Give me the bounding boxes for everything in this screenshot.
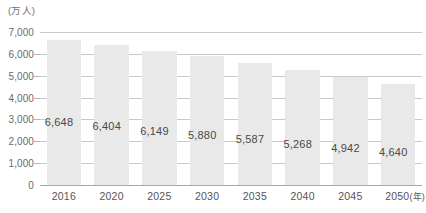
- bar: [333, 77, 367, 185]
- y-axis-tick-label: 2,000: [8, 136, 34, 147]
- bar-value-label: 4,942: [331, 142, 360, 154]
- bar: [238, 63, 272, 185]
- y-axis-tick-mark: [34, 54, 40, 55]
- x-axis-tick-label: 2020: [88, 190, 136, 202]
- x-axis-tick-label: 2016: [40, 190, 88, 202]
- x-axis-tick-label: 2045: [327, 190, 375, 202]
- bar: [190, 56, 224, 185]
- bar: [94, 45, 128, 185]
- x-axis-tick-label: 2040: [279, 190, 327, 202]
- bar: [47, 40, 81, 185]
- bar-value-label: 5,268: [283, 138, 312, 150]
- gridline: [40, 32, 422, 33]
- y-axis-tick-mark: [34, 163, 40, 164]
- y-axis-tick-mark: [34, 98, 40, 99]
- x-axis-tick-year: 2030: [195, 190, 219, 202]
- y-axis-tick-label: 5,000: [8, 70, 34, 81]
- plot-area: 6,6486,4046,1495,8805,5875,2684,9424,640: [40, 32, 422, 185]
- x-axis-tick-year: 2035: [243, 190, 267, 202]
- x-axis-tick-year: 2020: [100, 190, 124, 202]
- x-axis-tick-year: 2040: [291, 190, 315, 202]
- bar-value-label: 5,587: [236, 133, 265, 145]
- y-axis-unit-label: (万人): [8, 3, 35, 17]
- bar-value-label: 6,648: [45, 116, 74, 128]
- y-axis-tick-mark: [34, 141, 40, 142]
- x-axis-unit-label: (年): [409, 192, 425, 202]
- bar: [142, 51, 176, 185]
- y-axis-tick-label: 7,000: [8, 27, 34, 38]
- x-axis-tick-year: 2045: [338, 190, 362, 202]
- y-axis-tick-label: 6,000: [8, 48, 34, 59]
- x-axis-tick-label: 2050(年): [368, 190, 426, 203]
- x-axis-tick-year: 2025: [147, 190, 171, 202]
- bar-value-label: 5,880: [188, 129, 217, 141]
- y-axis-tick-label: 0: [28, 180, 34, 191]
- x-axis-tick-year: 2016: [52, 190, 76, 202]
- y-axis-tick-mark: [34, 119, 40, 120]
- bar-value-label: 4,640: [379, 146, 408, 158]
- bar: [285, 70, 319, 185]
- bar-value-label: 6,404: [92, 120, 121, 132]
- y-axis-tick-mark: [34, 76, 40, 77]
- y-axis-tick-label: 3,000: [8, 114, 34, 125]
- bar: [381, 84, 415, 185]
- population-bar-chart: (万人) 7,0006,0005,0004,0003,0002,0001,000…: [0, 0, 426, 213]
- x-axis-tick-label: 2025: [136, 190, 184, 202]
- x-axis-tick-label: 2030: [183, 190, 231, 202]
- y-axis-tick-label: 4,000: [8, 92, 34, 103]
- bar-value-label: 6,149: [140, 125, 169, 137]
- x-axis-baseline: [40, 185, 422, 186]
- x-axis-tick-label: 2035: [231, 190, 279, 202]
- y-axis-tick-label: 1,000: [8, 158, 34, 169]
- x-axis-tick-year: 2050: [385, 190, 409, 202]
